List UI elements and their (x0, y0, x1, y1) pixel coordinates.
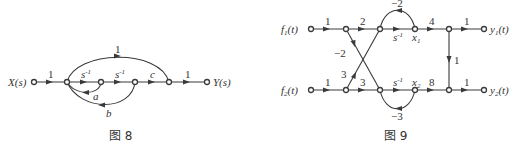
fig9-bottom-loop-gain: −3 (391, 110, 403, 122)
fig9-bottom-gain-8: 8 (429, 76, 435, 88)
arrow-icon (447, 56, 452, 63)
fig9-caption: 图 9 (384, 129, 407, 143)
arrow-icon (461, 27, 468, 32)
fig9-node-y2 (482, 88, 487, 93)
fig9-vertical-gain: 1 (454, 54, 460, 66)
fig8-in-gain: 1 (48, 68, 54, 80)
arrow-icon (351, 72, 356, 79)
fig9-top-out-gain: 1 (464, 15, 470, 27)
fig9-cross-down-gain: −2 (334, 47, 346, 59)
fig8-s2: s-1 (115, 68, 125, 80)
fig9-top-loop (380, 10, 415, 29)
fig9-top-gain-4: 4 (429, 15, 435, 27)
fig8-s1: s-1 (81, 68, 91, 80)
fig8-caption: 图 8 (109, 129, 132, 143)
fig9-output-y2: y2(t) (489, 84, 509, 98)
arrow-icon (80, 80, 87, 85)
fig8-node-1 (65, 80, 70, 85)
fig9-node-f1 (309, 27, 314, 32)
fig9-node-top-1 (344, 27, 349, 32)
fig9-top-integrator: s-1 (393, 31, 403, 43)
fig8-node-input (32, 80, 37, 85)
fig9-input-f2: f2(t) (281, 84, 298, 98)
fig9-bottom-loop (380, 90, 415, 109)
fig8-c: c (150, 68, 155, 80)
fig9-node-top-2 (378, 27, 383, 32)
arrow-icon (46, 80, 53, 85)
fig9-bottom-integrator: s-1 (393, 76, 403, 88)
arrow-icon (183, 80, 190, 85)
fig8-loop-b-gain: b (106, 107, 112, 119)
fig9-bottom-in-gain: 1 (325, 76, 331, 88)
fig9-input-f1: f1(t) (281, 23, 298, 37)
figure-9: f1(t) f2(t) y1(t) y2(t) 1 2 s-1 x1 4 1 −… (281, 0, 509, 143)
fig9-node-top-4 (447, 27, 452, 32)
fig8-node-4 (167, 80, 172, 85)
fig9-top-loop-gain: −2 (391, 0, 403, 9)
fig8-input-label: X(s) (7, 76, 27, 89)
fig9-bottom-gain-3: 3 (360, 76, 366, 88)
fig8-top-arc-gain: 1 (115, 43, 121, 55)
fig9-state-x1: x1 (411, 31, 420, 45)
fig8-output-label: Y(s) (213, 76, 231, 89)
fig9-node-bottom-4 (447, 88, 452, 93)
arrow-icon (358, 88, 365, 93)
arrow-icon (351, 40, 356, 47)
fig8-node-2 (99, 80, 104, 85)
arrow-icon (427, 88, 434, 93)
signal-flow-diagrams: X(s) Y(s) 1 s-1 s-1 c 1 1 a b 图 8 (0, 0, 521, 152)
fig9-node-y1 (482, 27, 487, 32)
arrow-icon (461, 88, 468, 93)
fig9-state-x2: x2 (411, 76, 421, 90)
fig9-node-bottom-1 (344, 88, 349, 93)
arrow-icon (358, 27, 365, 32)
arrow-icon (323, 27, 330, 32)
arrow-icon (114, 80, 121, 85)
fig9-top-gain-2: 2 (360, 15, 366, 27)
fig9-node-bottom-2 (378, 88, 383, 93)
fig8-node-output (205, 80, 210, 85)
fig9-bottom-out-gain: 1 (464, 76, 470, 88)
arrow-icon (148, 80, 155, 85)
arrow-icon (323, 88, 330, 93)
arrow-icon (98, 103, 105, 108)
figure-8: X(s) Y(s) 1 s-1 s-1 c 1 1 a b 图 8 (7, 43, 231, 143)
fig8-loop-a-gain: a (93, 90, 99, 102)
fig8-node-3 (133, 80, 138, 85)
arrow-icon (82, 90, 89, 95)
fig9-cross-up-gain: 3 (341, 68, 347, 80)
fig9-top-in-gain: 1 (325, 15, 331, 27)
fig9-output-y1: y1(t) (489, 23, 509, 37)
arrow-icon (393, 88, 400, 93)
fig8-out-gain: 1 (185, 68, 191, 80)
fig8-loop-b (67, 82, 135, 105)
fig9-node-f2 (309, 88, 314, 93)
arrow-icon (427, 27, 434, 32)
